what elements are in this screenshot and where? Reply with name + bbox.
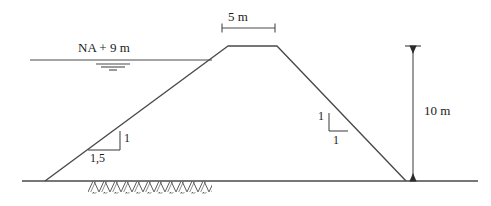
- left-slope-horizontal-label: 1,5: [90, 152, 105, 164]
- right-slope-triangle: [329, 113, 348, 131]
- water-level-label: NA + 9 m: [78, 41, 130, 54]
- crest-width-dimension: [222, 24, 275, 33]
- water-table-icon: [96, 64, 130, 70]
- right-slope-horizontal-label: 1: [333, 134, 339, 146]
- left-slope-triangle: [88, 131, 120, 150]
- right-slope-vertical-label: 1: [318, 110, 324, 122]
- embankment-cross-section-figure: 5 m 10 m NA + 9 m 1 1,5 1 1: [0, 0, 491, 206]
- foundation-hatching: [88, 182, 212, 194]
- height-dimension: [405, 46, 421, 182]
- crest-width-label: 5 m: [228, 10, 248, 23]
- embankment-height-label: 10 m: [424, 104, 450, 117]
- left-slope-vertical-label: 1: [124, 132, 130, 144]
- figure-drawing: [0, 0, 491, 206]
